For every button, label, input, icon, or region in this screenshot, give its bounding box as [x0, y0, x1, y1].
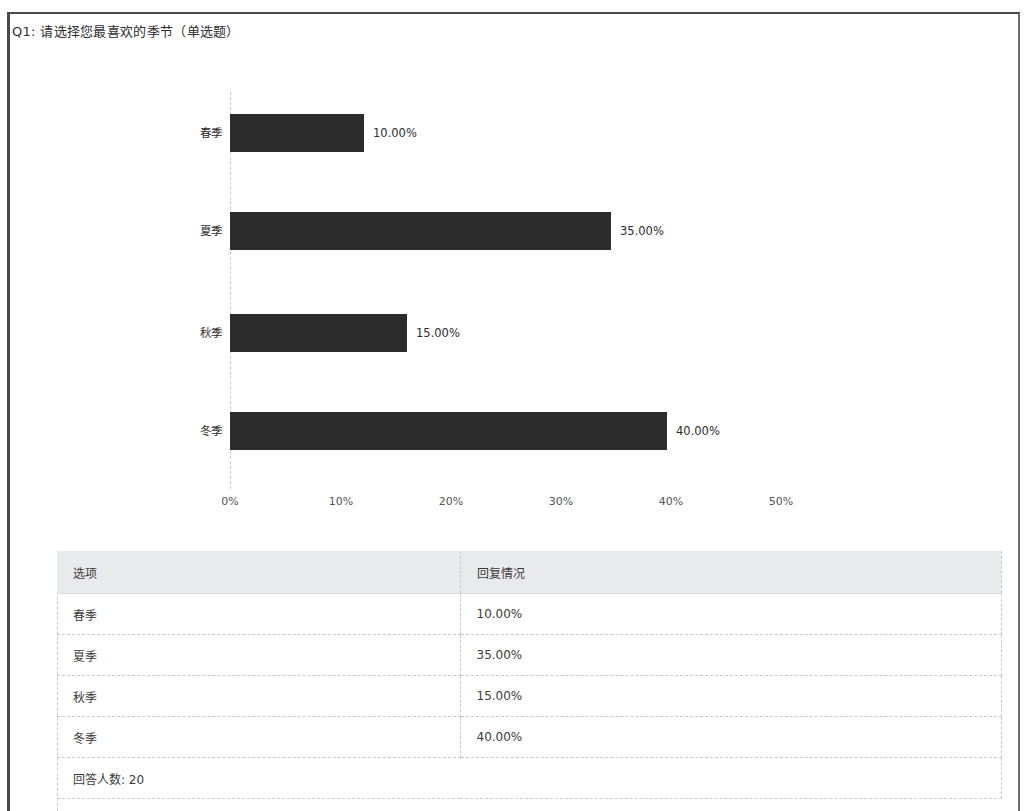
x-axis-tick: 30% [549, 495, 573, 508]
table-footer-row: 回答人数: 20 [57, 758, 1001, 799]
x-axis-tick: 20% [439, 495, 463, 508]
table-cell-option: 秋季 [57, 676, 460, 717]
table-cell-result: 40.00% [460, 717, 1001, 758]
bar-value-label: 10.00% [373, 114, 417, 152]
x-axis-tick: 0% [221, 495, 238, 508]
x-axis: 0% 10% 20% 30% 40% 50% [230, 495, 900, 515]
bar-value-label: 35.00% [620, 212, 664, 250]
bar-category-label: 夏季 [200, 212, 222, 250]
bar-category-label: 春季 [200, 114, 222, 152]
x-axis-tick: 10% [329, 495, 353, 508]
chart-plot-area: 春季 10.00% 夏季 35.00% 秋季 15.00% 冬季 40.00% … [230, 92, 900, 504]
table-cell-result: 10.00% [460, 594, 1001, 635]
table-cell-result: 15.00% [460, 676, 1001, 717]
bar-category-label: 秋季 [200, 314, 222, 352]
x-axis-tick: 40% [659, 495, 683, 508]
results-table: 选项 回复情况 春季 10.00% 夏季 35.00% 秋季 15.00% 冬季… [57, 551, 1002, 799]
table-header-row: 选项 回复情况 [57, 551, 1001, 594]
table-row: 春季 10.00% [57, 594, 1001, 635]
table-row: 夏季 35.00% [57, 635, 1001, 676]
bar-fill [230, 212, 611, 250]
table-cell-option: 冬季 [57, 717, 460, 758]
table-header-result: 回复情况 [460, 551, 1001, 594]
bar-value-label: 40.00% [676, 412, 720, 450]
table-cell-option: 春季 [57, 594, 460, 635]
bar-category-label: 冬季 [200, 412, 222, 450]
bar-fill [230, 412, 667, 450]
bar-fill [230, 314, 407, 352]
bar-chart: 春季 10.00% 夏季 35.00% 秋季 15.00% 冬季 40.00% … [0, 72, 1013, 532]
bar-fill [230, 114, 364, 152]
table-row: 冬季 40.00% [57, 717, 1001, 758]
table-header-option: 选项 [57, 551, 460, 594]
bar-value-label: 15.00% [416, 314, 460, 352]
table-cell-option: 夏季 [57, 635, 460, 676]
table-cell-result: 35.00% [460, 635, 1001, 676]
table-row: 秋季 15.00% [57, 676, 1001, 717]
x-axis-tick: 50% [769, 495, 793, 508]
question-title: Q1: 请选择您最喜欢的季节（单选题） [12, 21, 240, 40]
respondent-count: 回答人数: 20 [57, 758, 1001, 799]
